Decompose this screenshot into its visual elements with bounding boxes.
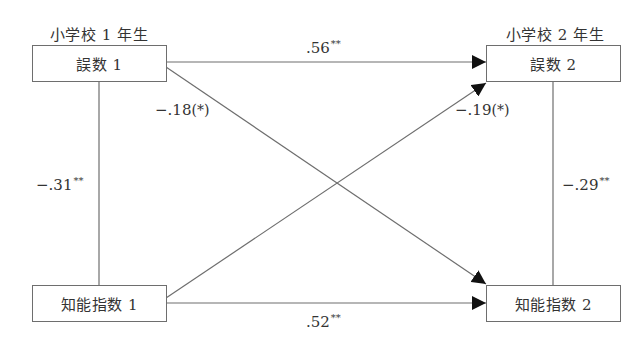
- coef-errors1-to-iq2: −.18(*): [155, 101, 209, 119]
- coef-significance: **: [331, 312, 341, 323]
- coef-value: −.31: [36, 176, 72, 194]
- node-errors-t1: 誤数 1: [32, 45, 167, 82]
- coef-significance: **: [73, 175, 83, 186]
- path-iq1-to-errors2: [166, 83, 486, 298]
- node-iq-t2: 知能指数 2: [486, 285, 621, 322]
- coef-iq-stability: .52**: [306, 312, 341, 331]
- node-errors-t2: 誤数 2: [486, 45, 621, 82]
- cross-lagged-panel-diagram: 小学校 1 年生 小学校 2 年生 誤数 1 誤数 2 知能指数 1 知能指数 …: [0, 0, 644, 348]
- coef-significance: **: [599, 175, 609, 186]
- coef-significance: **: [331, 38, 341, 49]
- coef-significance: (*): [191, 102, 209, 118]
- path-errors1-to-iq2: [166, 67, 486, 284]
- coef-significance: (*): [491, 102, 509, 118]
- node-iq-t1: 知能指数 1: [32, 285, 167, 322]
- coef-iq1-to-errors2: −.19(*): [455, 101, 509, 119]
- time-label-grade2: 小学校 2 年生: [485, 23, 625, 44]
- coef-value: .56: [306, 39, 330, 57]
- coef-errors-stability: .56**: [306, 38, 341, 57]
- coef-value: −.19: [455, 101, 491, 119]
- coef-corr-t1: −.31**: [36, 175, 83, 194]
- coef-corr-t2: −.29**: [562, 175, 609, 194]
- coef-value: −.29: [562, 176, 598, 194]
- time-label-grade1: 小学校 1 年生: [29, 23, 169, 44]
- coef-value: −.18: [155, 101, 191, 119]
- coef-value: .52: [306, 313, 330, 331]
